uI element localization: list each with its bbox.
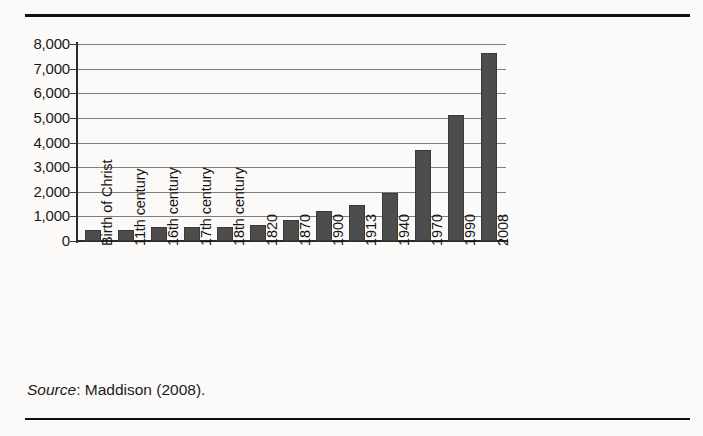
- y-axis-tick-label: 2,000: [33, 183, 70, 200]
- y-axis-tick-label: 0: [62, 232, 70, 249]
- x-axis-tick-label-text: 17th century: [198, 167, 214, 246]
- figure-container: 01,0002,0003,0004,0005,0006,0007,0008,00…: [0, 0, 703, 436]
- source-citation: Maddison (2008).: [85, 381, 206, 398]
- x-axis-tick-label-text: 1913: [363, 214, 379, 246]
- x-axis-tick-label-text: 1870: [297, 214, 313, 246]
- figure-bottom-rule: [25, 418, 690, 420]
- x-axis-tick-label-text: 1990: [462, 214, 478, 246]
- figure-top-rule: [25, 14, 690, 17]
- x-axis-tick-label-text: 11th century: [132, 168, 148, 246]
- y-axis-tick-label: 1,000: [33, 208, 70, 225]
- source-caption: Source: Maddison (2008).: [27, 381, 205, 399]
- x-axis-tick-label-text: 16th century: [165, 167, 181, 246]
- bar: [481, 53, 497, 241]
- source-separator: :: [76, 381, 85, 398]
- x-axis-tick-label-text: 1970: [429, 214, 445, 246]
- x-axis-tick-label-text: 1820: [264, 214, 280, 246]
- x-axis-tick-label-text: 18th century: [231, 167, 247, 246]
- source-label: Source: [27, 381, 76, 398]
- x-axis-labels: Birth of Christ11th century16th century1…: [76, 246, 506, 361]
- y-axis-tick-label: 7,000: [33, 60, 70, 77]
- y-axis-tick-label: 3,000: [33, 158, 70, 175]
- x-axis-tick-label-text: 1900: [330, 214, 346, 246]
- y-axis-tick-label: 4,000: [33, 134, 70, 151]
- y-axis-labels: 01,0002,0003,0004,0005,0006,0007,0008,00…: [8, 44, 70, 241]
- y-axis-tick-label: 6,000: [33, 84, 70, 101]
- x-axis-tick-label-text: Birth of Christ: [99, 160, 115, 246]
- x-axis-tick-label-text: 2008: [495, 214, 511, 246]
- y-axis-tick-label: 5,000: [33, 109, 70, 126]
- y-axis-tick-label: 8,000: [33, 35, 70, 52]
- x-axis-tick-label-text: 1940: [396, 214, 412, 246]
